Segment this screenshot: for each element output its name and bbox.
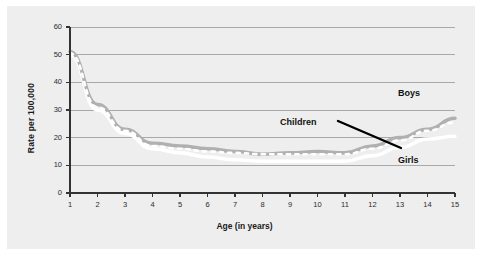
- series-label-girls: Girls: [398, 155, 419, 165]
- x-tick-label: 7: [225, 200, 245, 209]
- chart-figure: 123456789101112131415 0102030405060 Rate…: [0, 0, 489, 260]
- gridlines-group: [70, 27, 455, 193]
- y-tick-label: 10: [40, 160, 62, 169]
- x-tick-label: 1: [60, 200, 80, 209]
- x-tick-label: 6: [198, 200, 218, 209]
- children-pointer-line: [338, 121, 401, 148]
- y-tick-label: 0: [40, 188, 62, 197]
- x-tick-label: 9: [280, 200, 300, 209]
- y-axis-label: Rate per 100,000: [22, 58, 40, 178]
- series-label-boys: Boys: [398, 88, 420, 98]
- x-axis-label: Age (in years): [0, 221, 489, 231]
- series-label-children: Children: [280, 117, 317, 127]
- x-tick-label: 5: [170, 200, 190, 209]
- x-tick-label: 13: [390, 200, 410, 209]
- x-tick-label: 4: [143, 200, 163, 209]
- x-tick-label: 12: [363, 200, 383, 209]
- x-tick-label: 15: [445, 200, 465, 209]
- y-tick-label: 30: [40, 105, 62, 114]
- y-tick-label: 50: [40, 50, 62, 59]
- y-tick-label: 60: [40, 22, 62, 31]
- y-axis-label-text: Rate per 100,000: [26, 83, 36, 153]
- x-tick-label: 2: [88, 200, 108, 209]
- x-tick-label: 3: [115, 200, 135, 209]
- y-tick-label: 40: [40, 77, 62, 86]
- x-tick-label: 8: [253, 200, 273, 209]
- y-tick-label: 20: [40, 133, 62, 142]
- x-tick-label: 11: [335, 200, 355, 209]
- x-tick-label: 10: [308, 200, 328, 209]
- tick-marks-group: [66, 27, 455, 197]
- x-tick-label: 14: [418, 200, 438, 209]
- series-group: [70, 52, 455, 161]
- series-line-boys: [70, 52, 455, 154]
